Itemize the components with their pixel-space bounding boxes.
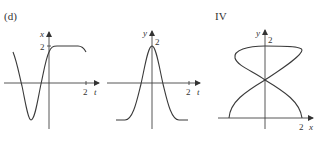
horizontal-tick-label: 2 (83, 87, 88, 97)
curve-parametric-loop-top (235, 46, 302, 80)
panel-label-IV: IV (215, 10, 227, 22)
panel-label-d: (d) (4, 10, 17, 23)
horizontal-tick-label: 2 (186, 87, 191, 97)
vertical-axis-label: x (39, 29, 44, 39)
horizontal-axis-label: x (308, 122, 313, 132)
horizontal-axis-label: t (197, 87, 200, 97)
vertical-axis-label: y (255, 28, 260, 38)
panel-d-y-vs-t: y 2 2 t (107, 28, 200, 129)
panel-d-x-vs-t: (d) x 2 2 t (4, 10, 99, 129)
curve-parametric-bottom (229, 80, 302, 118)
vertical-tick-label: 2 (155, 37, 160, 47)
figure-canvas: (d) x 2 2 t y 2 2 t IV y 2 2 x (0, 0, 314, 142)
vertical-tick-label: 2 (268, 35, 273, 45)
vertical-tick-label: 2 (40, 42, 45, 52)
panel-IV-y-vs-x: IV y 2 2 x (215, 10, 313, 132)
horizontal-axis-label: t (94, 87, 97, 97)
horizontal-tick-label: 2 (299, 122, 304, 132)
vertical-axis-label: y (142, 28, 147, 38)
